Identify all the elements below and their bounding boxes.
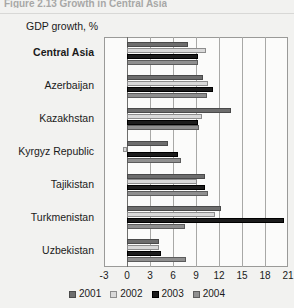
legend-item-2001[interactable]: 2001: [69, 289, 101, 299]
x-tick-label: 18: [259, 270, 270, 281]
category-label: Uzbekistan: [42, 244, 94, 256]
bar-2002: [127, 179, 197, 184]
x-tick-label: 6: [170, 270, 176, 281]
category-label: Kyrgyz Republic: [18, 145, 94, 157]
bar-2003: [127, 185, 205, 190]
legend-label: 2004: [203, 289, 225, 299]
legend-label: 2003: [162, 289, 184, 299]
bar-2001: [127, 42, 188, 47]
bar-2001: [127, 239, 159, 244]
chart-legend: 2001200220032004: [0, 289, 294, 299]
legend-item-2002[interactable]: 2002: [110, 289, 142, 299]
x-tick-label: 15: [236, 270, 247, 281]
legend-swatch-icon: [69, 291, 76, 298]
bar-2004: [127, 158, 181, 163]
chart-plot-wrapper: [104, 37, 288, 267]
bar-2002: [123, 147, 127, 152]
bar-2002: [127, 212, 215, 217]
bar-2003: [127, 152, 178, 157]
legend-label: 2001: [79, 289, 101, 299]
bar-2004: [127, 125, 199, 130]
chart-bars-layer: [104, 37, 288, 267]
bar-2003: [127, 120, 198, 125]
bar-2002: [127, 81, 208, 86]
bar-2002: [127, 48, 206, 53]
bar-2003: [127, 87, 213, 92]
value-axis-tick-labels: -3036912151821: [104, 270, 288, 284]
bar-2003: [127, 218, 284, 223]
legend-item-2003[interactable]: 2003: [152, 289, 184, 299]
legend-swatch-icon: [193, 291, 200, 298]
category-label: Kazakhstan: [39, 112, 94, 124]
category-label: Central Asia: [33, 46, 94, 58]
bar-2001: [127, 174, 205, 179]
x-tick-label: -3: [100, 270, 109, 281]
x-tick-label: 3: [147, 270, 153, 281]
bar-2002: [127, 114, 202, 119]
bar-2004: [127, 93, 207, 98]
bar-2001: [127, 108, 231, 113]
bar-2001: [127, 206, 221, 211]
category-label: Turkmenistan: [31, 211, 94, 223]
bar-2004: [127, 224, 185, 229]
legend-label: 2002: [120, 289, 142, 299]
legend-swatch-icon: [110, 291, 117, 298]
x-tick-label: 21: [282, 270, 293, 281]
x-tick-label: 12: [213, 270, 224, 281]
bar-2004: [127, 60, 198, 65]
category-label: Azerbaijan: [44, 79, 94, 91]
category-label: Tajikistan: [51, 178, 94, 190]
figure-title: Figure 2.13 Growth in Central Asia: [4, 0, 167, 8]
legend-item-2004[interactable]: 2004: [193, 289, 225, 299]
legend-swatch-icon: [152, 291, 159, 298]
header-divider: [0, 13, 294, 14]
category-axis-labels: Central AsiaAzerbaijanKazakhstanKyrgyz R…: [0, 37, 100, 267]
bar-2004: [127, 257, 186, 262]
bar-2001: [127, 141, 168, 146]
x-tick-label: 9: [193, 270, 199, 281]
bar-2001: [127, 75, 203, 80]
x-tick-label: 0: [124, 270, 130, 281]
bar-2002: [127, 245, 159, 250]
bar-2003: [127, 54, 198, 59]
chart-axis-title: GDP growth, %: [26, 20, 98, 32]
bar-2004: [127, 191, 208, 196]
bar-2003: [127, 251, 161, 256]
